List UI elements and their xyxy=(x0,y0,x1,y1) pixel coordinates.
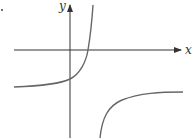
y-axis-label: y xyxy=(58,0,66,13)
x-axis-label: x xyxy=(185,43,192,57)
curve-right-branch xyxy=(100,92,183,138)
bullet-dot xyxy=(1,9,3,11)
function-graph: x y xyxy=(0,0,193,140)
curve-left-branch xyxy=(14,5,93,87)
